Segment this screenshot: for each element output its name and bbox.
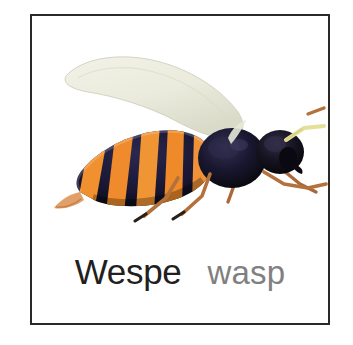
wasp-head — [256, 130, 304, 174]
flashcard-root: Wespe wasp — [0, 0, 353, 345]
german-label: Wespe — [75, 254, 182, 289]
english-label: wasp — [207, 256, 285, 289]
flashcard-frame: Wespe wasp — [30, 14, 330, 325]
wasp-artwork — [32, 16, 328, 246]
caption-row: Wespe wasp — [32, 254, 328, 306]
wasp-illustration — [32, 16, 328, 246]
